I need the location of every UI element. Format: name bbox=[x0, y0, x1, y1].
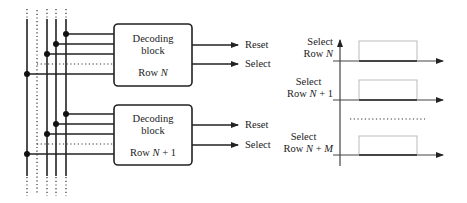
timing-label-row-nm: Select Row N + M bbox=[260, 131, 333, 155]
reset-label-n: Reset bbox=[245, 39, 268, 51]
block-n-title: Decoding block bbox=[114, 33, 192, 57]
timing-label-row-n: Select Row N bbox=[270, 36, 333, 60]
block-n-inputs bbox=[27, 34, 114, 74]
block-n1-title-line1: Decoding bbox=[114, 113, 192, 125]
pulse-row-nm bbox=[359, 136, 417, 155]
block-n1-inputs bbox=[27, 114, 114, 154]
address-bus bbox=[27, 19, 66, 176]
block-n-title-line1: Decoding bbox=[114, 33, 192, 45]
signal-row-nm bbox=[333, 136, 443, 155]
reset-label-n1: Reset bbox=[245, 119, 268, 131]
pulse-row-n1 bbox=[359, 80, 417, 100]
block-n-title-line2: block bbox=[114, 45, 192, 57]
select-label-n: Select bbox=[245, 58, 271, 70]
block-n1-title-line2: block bbox=[114, 125, 192, 137]
signal-row-n1 bbox=[333, 80, 443, 100]
signal-row-n bbox=[333, 41, 443, 61]
pulse-row-n bbox=[359, 41, 417, 61]
timing-label-row-n1: Select Row N + 1 bbox=[270, 76, 333, 100]
block-n1-title: Decoding block bbox=[114, 113, 192, 137]
block-n-row-label: Row N bbox=[114, 67, 192, 79]
row-decoder-diagram bbox=[0, 0, 467, 203]
block-n1-row-label: Row N + 1 bbox=[114, 147, 192, 159]
